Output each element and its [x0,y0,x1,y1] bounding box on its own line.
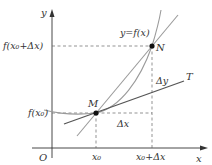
point-n [149,43,154,48]
curve-f [44,10,161,114]
point-n-label: N [155,42,166,53]
curve-label: y=f(x) [119,27,150,38]
point-m [93,110,98,115]
point-m-label: M [87,98,99,109]
origin-label: O [39,152,47,163]
delta-x-label: Δx [116,118,130,129]
guide-lines [52,46,152,148]
y-axis-arrow-icon [50,9,55,17]
derivative-geometric-diagram: y x O y=f(x) M N T Δy Δx f(x₀+Δx) f(x₀) … [0,0,212,165]
f-x0-dx-label: f(x₀+Δx) [2,40,44,51]
delta-y-label: Δy [155,75,169,86]
x0-label: x₀ [92,151,101,162]
x-axis-arrow-icon [200,146,208,151]
x-axis-label: x [196,153,202,164]
x0-dx-label: x₀+Δx [136,151,166,162]
tangent-label: T [186,71,194,82]
f-x0-label: f(x₀) [27,107,48,118]
y-axis-label: y [40,7,47,18]
